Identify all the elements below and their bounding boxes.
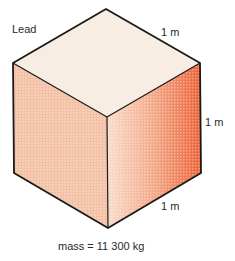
lead-cube-diagram: Lead 1 m 1 m 1 m mass = 11 300 kg xyxy=(0,0,235,261)
top-edge-dimension-label: 1 m xyxy=(161,27,179,38)
bottom-edge-dimension-label: 1 m xyxy=(161,201,179,212)
right-edge-dimension-label: 1 m xyxy=(205,117,223,128)
mass-caption: mass = 11 300 kg xyxy=(58,241,144,252)
material-label: Lead xyxy=(12,24,36,35)
cube-illustration xyxy=(0,0,235,261)
